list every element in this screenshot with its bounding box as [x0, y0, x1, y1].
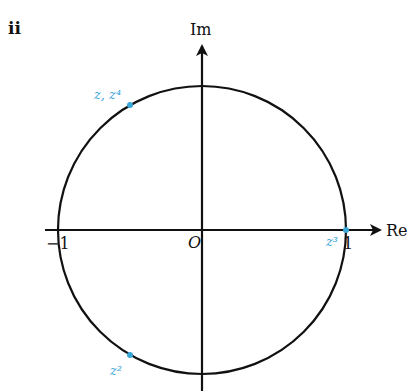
point-z3 — [343, 227, 349, 233]
argand-diagram — [0, 0, 413, 391]
point-z-label: z, z⁴ — [94, 88, 121, 101]
real-axis-label: Re — [386, 223, 408, 239]
origin-label: O — [188, 235, 201, 251]
point-z3-label: z³ — [326, 235, 338, 248]
point-z2-label: z² — [110, 364, 122, 377]
tick-one: 1 — [343, 236, 353, 252]
point-z2 — [127, 352, 133, 358]
point-z — [127, 102, 133, 108]
tick-neg-one: −1 — [46, 236, 70, 252]
imag-axis-label: Im — [190, 22, 212, 38]
part-label: ii — [8, 20, 21, 37]
